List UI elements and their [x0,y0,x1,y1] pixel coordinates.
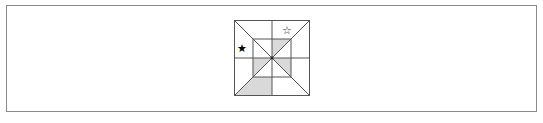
center-dot [271,57,274,60]
bottom-left-trapezoid [234,77,272,96]
hollow-star-icon: ☆ [282,24,292,37]
square-puzzle-diagram: ★ ☆ [0,0,543,123]
filled-star-icon: ★ [237,42,247,55]
